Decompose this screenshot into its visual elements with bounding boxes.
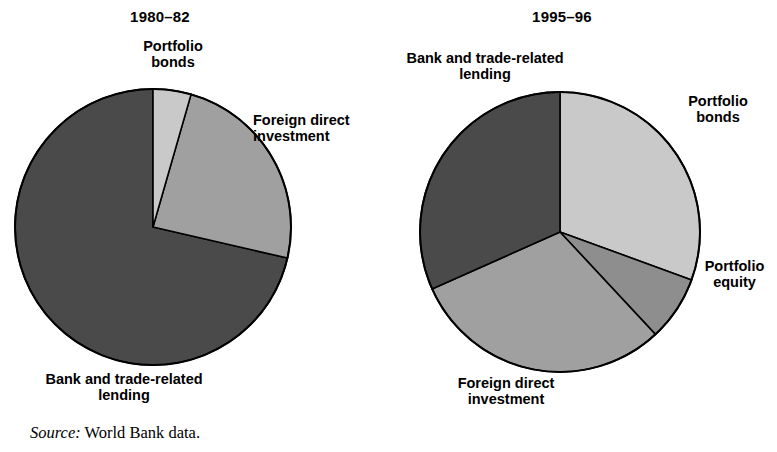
pie-svg-right — [414, 88, 706, 380]
chart-title-right: 1995–96 — [462, 8, 662, 25]
pie-label-left-foreign-direct-investment: Foreign direct investment — [253, 112, 403, 144]
source-note: Source: World Bank data. — [30, 423, 200, 443]
pie-chart-1995-96 — [414, 88, 706, 380]
pie-label-left-portfolio-bonds: Portfolio bonds — [108, 38, 238, 70]
figure-private-capital-flows: 1980–82 Portfolio bonds Foreign direct i… — [0, 0, 777, 452]
pie-label-left-bank-and-trade-related-lending: Bank and trade-related lending — [0, 371, 248, 403]
pie-label-right-portfolio-bonds: Portfolio bonds — [662, 93, 774, 125]
source-value: World Bank data. — [85, 423, 201, 442]
pie-label-right-portfolio-equity: Portfolio equity — [692, 258, 777, 290]
pie-label-right-foreign-direct-investment: Foreign direct investment — [384, 375, 628, 407]
chart-title-left: 1980–82 — [60, 8, 260, 25]
source-label: Source: — [30, 423, 81, 442]
pie-label-right-bank-and-trade-related-lending: Bank and trade-related lending — [372, 50, 598, 82]
